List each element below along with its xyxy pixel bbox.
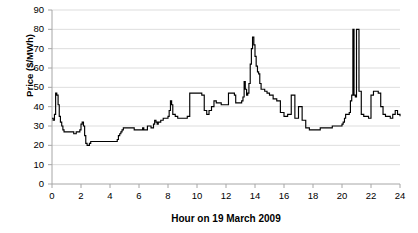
axis-lines-group bbox=[52, 10, 400, 184]
price-line-chart: 0102030405060708090 02468101214161820222… bbox=[0, 0, 418, 233]
x-tick-label-6: 6 bbox=[129, 191, 149, 201]
x-tick-label-14: 14 bbox=[245, 191, 265, 201]
y-tick-label-0: 0 bbox=[22, 179, 44, 189]
x-tick-label-22: 22 bbox=[361, 191, 381, 201]
x-tick-label-2: 2 bbox=[71, 191, 91, 201]
x-tick-label-18: 18 bbox=[303, 191, 323, 201]
tickmarks-group bbox=[48, 10, 400, 188]
y-tick-label-20: 20 bbox=[22, 140, 44, 150]
x-tick-label-8: 8 bbox=[158, 191, 178, 201]
x-tick-label-20: 20 bbox=[332, 191, 352, 201]
x-tick-label-4: 4 bbox=[100, 191, 120, 201]
chart-canvas bbox=[0, 0, 418, 233]
y-tick-label-10: 10 bbox=[22, 160, 44, 170]
x-tick-label-10: 10 bbox=[187, 191, 207, 201]
x-tick-label-16: 16 bbox=[274, 191, 294, 201]
y-tick-label-30: 30 bbox=[22, 121, 44, 131]
x-axis-title: Hour on 19 March 2009 bbox=[52, 213, 400, 224]
y-axis-title: Price ($/MWh) bbox=[24, 11, 35, 121]
x-tick-label-24: 24 bbox=[390, 191, 410, 201]
x-tick-label-12: 12 bbox=[216, 191, 236, 201]
x-tick-label-0: 0 bbox=[42, 191, 62, 201]
